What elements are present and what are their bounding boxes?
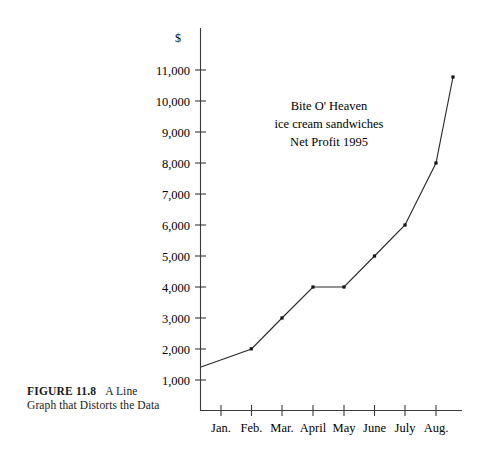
figure-container: 11,000 10,000 9,000 8,000 7,000 6,000 5,… — [0, 0, 501, 460]
x-tick-label: Mar. — [270, 421, 293, 435]
data-point-marker — [280, 316, 283, 319]
data-point-marker — [451, 75, 454, 78]
data-point-marker — [311, 285, 314, 288]
annotation-line-2: ice cream sandwiches — [275, 117, 384, 131]
data-point-marker — [250, 347, 253, 350]
y-tick-label: 2,000 — [162, 343, 190, 357]
y-tick-label: 11,000 — [156, 64, 190, 78]
y-tick-label: 9,000 — [162, 126, 190, 140]
annotation-line-3: Net Profit 1995 — [290, 135, 368, 149]
y-tick-labels: 11,000 10,000 9,000 8,000 7,000 6,000 5,… — [156, 64, 190, 388]
x-tick-label: June — [363, 421, 386, 435]
x-tick-label: July — [395, 421, 417, 435]
x-tick-label: May — [333, 421, 357, 435]
data-point-marker — [373, 254, 376, 257]
y-tick-label: 5,000 — [162, 250, 190, 264]
data-point-marker — [434, 161, 437, 164]
y-tick-label: 3,000 — [162, 312, 190, 326]
x-tick-label: Aug. — [424, 421, 449, 435]
x-tick-label: Jan. — [211, 421, 231, 435]
y-tick-label: 7,000 — [162, 188, 190, 202]
figure-number: FIGURE 11.8 — [27, 385, 96, 397]
x-tick-label: April — [300, 421, 327, 435]
data-point-marker — [403, 223, 406, 226]
annotation-line-1: Bite O' Heaven — [291, 99, 368, 113]
data-point-marker — [342, 285, 345, 288]
y-tick-label: 10,000 — [156, 95, 190, 109]
x-tick-labels: Jan. Feb. Mar. April May June July Aug. — [211, 421, 448, 435]
y-tick-label: 6,000 — [162, 219, 190, 233]
y-axis-currency-label: $ — [175, 31, 181, 45]
y-tick-label: 8,000 — [162, 157, 190, 171]
y-tick-label: 4,000 — [162, 281, 190, 295]
x-tick-label: Feb. — [241, 421, 263, 435]
figure-caption: FIGURE 11.8 A Line Graph that Distorts t… — [27, 385, 167, 412]
chart-annotation: Bite O' Heaven ice cream sandwiches Net … — [275, 99, 384, 149]
